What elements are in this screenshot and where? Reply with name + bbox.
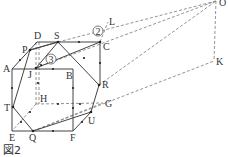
cube-diagram: A D S P C J B R H G T U E Q F L O K 2 3 … xyxy=(0,0,228,157)
svg-text:2: 2 xyxy=(96,26,101,37)
circled-number-2: 2 xyxy=(93,26,103,37)
cross-section xyxy=(13,42,100,131)
label-Q: Q xyxy=(29,132,37,143)
label-O: O xyxy=(219,0,226,8)
label-F: F xyxy=(70,132,76,143)
label-P: P xyxy=(22,44,28,55)
point-labels: A D S P C J B R H G T U E Q F L O K xyxy=(3,0,226,143)
label-D: D xyxy=(34,30,41,41)
label-A: A xyxy=(3,63,11,74)
label-K: K xyxy=(216,56,224,67)
label-G: G xyxy=(105,98,112,109)
label-R: R xyxy=(102,79,109,90)
label-H: H xyxy=(40,93,47,104)
label-L: L xyxy=(109,16,115,27)
circled-number-3: 3 xyxy=(46,54,56,65)
label-S: S xyxy=(54,30,60,41)
label-C: C xyxy=(103,41,110,52)
label-J: J xyxy=(28,69,32,80)
cube-edges xyxy=(12,42,100,131)
label-U: U xyxy=(88,115,96,126)
svg-text:3: 3 xyxy=(49,54,54,65)
label-B: B xyxy=(66,70,73,81)
label-T: T xyxy=(4,102,10,113)
figure-caption: 図2 xyxy=(3,144,21,157)
construction-lines xyxy=(33,1,216,131)
label-E: E xyxy=(9,132,15,143)
